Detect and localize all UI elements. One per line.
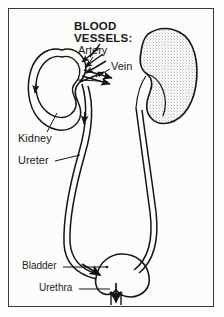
urinary-system-figure: BLOOD VESSELS: Artery Vein Kidney Ureter… bbox=[0, 0, 224, 317]
right-kidney-group bbox=[136, 24, 200, 130]
bladder-outline bbox=[96, 254, 150, 297]
urethra-label: Urethra bbox=[39, 283, 72, 294]
bladder-label: Bladder bbox=[22, 261, 56, 272]
left-ureter-wall-inner bbox=[70, 86, 97, 274]
left-kidney-outline bbox=[28, 49, 85, 130]
left-ureter-flow-arrow bbox=[84, 112, 85, 124]
artery-label: Artery bbox=[78, 45, 107, 57]
bladder-leader-dot bbox=[106, 266, 109, 269]
right-renal-vessel bbox=[136, 76, 146, 108]
kidney-label: Kidney bbox=[18, 133, 52, 145]
vein-label: Vein bbox=[111, 61, 132, 73]
renal-vein-group bbox=[78, 70, 112, 84]
right-ureter-group bbox=[134, 108, 157, 273]
bladder-group bbox=[96, 254, 150, 300]
left-ureter-group bbox=[64, 84, 100, 279]
ureter-label: Ureter bbox=[18, 155, 49, 167]
left-kidney-inner-outline bbox=[36, 56, 80, 117]
left-kidney-flow-arrow bbox=[35, 84, 36, 93]
blood-vessels-title: BLOOD VESSELS: bbox=[74, 20, 132, 45]
left-kidney-group bbox=[28, 49, 85, 130]
leader-lines bbox=[47, 57, 110, 289]
right-ureter-wall-outer bbox=[134, 108, 151, 270]
